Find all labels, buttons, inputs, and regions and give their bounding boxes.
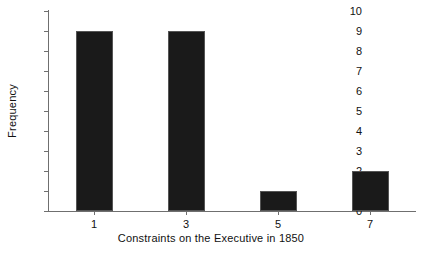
y-axis-title-text: Frequency [6,84,18,138]
x-tick-label: 5 [258,219,298,230]
y-tick-label: 6 [332,86,362,97]
y-tick-mark [44,91,49,92]
x-tick-label: 7 [350,219,390,230]
x-axis-title: Constraints on the Executive in 1850 [0,232,422,244]
y-tick-mark [44,211,49,212]
y-tick-label: 8 [332,46,362,57]
y-tick-mark [44,131,49,132]
y-tick-mark [44,51,49,52]
y-tick-label: 5 [332,106,362,117]
x-tick-label: 3 [166,219,206,230]
x-tick-mark [278,211,279,215]
y-tick-mark [44,31,49,32]
y-tick-mark [44,111,49,112]
y-tick-mark [44,11,49,12]
y-tick-label: 9 [332,26,362,37]
bar-chart: Frequency 012345678910 1357 Constraints … [0,0,422,273]
y-tick-mark [44,151,49,152]
bar [260,191,297,211]
x-tick-mark [370,211,371,215]
y-tick-label: 7 [332,66,362,77]
x-tick-mark [94,211,95,215]
y-tick-label: 4 [332,126,362,137]
plot-area: 012345678910 1357 [48,11,416,211]
y-tick-label: 10 [332,6,362,17]
y-tick-mark [44,191,49,192]
y-tick-mark [44,71,49,72]
y-tick-mark [44,171,49,172]
bar [352,171,389,211]
bar [168,31,205,211]
x-tick-mark [186,211,187,215]
y-axis-title: Frequency [2,0,22,222]
x-tick-label: 1 [74,219,114,230]
y-tick-label: 3 [332,146,362,157]
bar [76,31,113,211]
